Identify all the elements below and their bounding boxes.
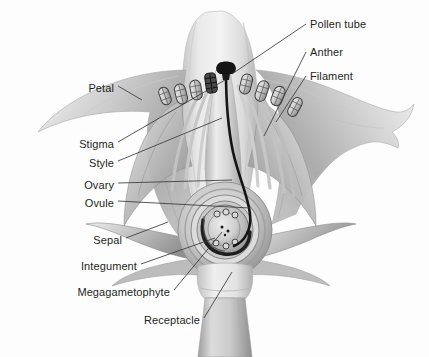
pedicel-stem [198, 298, 252, 357]
label-megagametophyte: Megagametophyte [77, 286, 170, 298]
label-sepal: Sepal [93, 234, 122, 246]
label-receptacle: Receptacle [144, 314, 200, 326]
label-ovule: Ovule [85, 197, 114, 209]
label-filament: Filament [310, 70, 353, 82]
label-pollen-tube: Pollen tube [310, 18, 366, 30]
label-ovary: Ovary [84, 179, 114, 191]
label-stigma: Stigma [79, 138, 114, 150]
label-integument: Integument [81, 260, 137, 272]
label-anther: Anther [310, 46, 343, 58]
flower-diagram-illustration [0, 0, 429, 357]
label-style: Style [89, 157, 114, 169]
flower-anatomy-figure: Petal Stigma Style Ovary Ovule Sepal Int… [0, 0, 429, 357]
ovule-body [201, 205, 250, 255]
receptacle-body [197, 263, 253, 298]
label-petal: Petal [88, 82, 114, 94]
